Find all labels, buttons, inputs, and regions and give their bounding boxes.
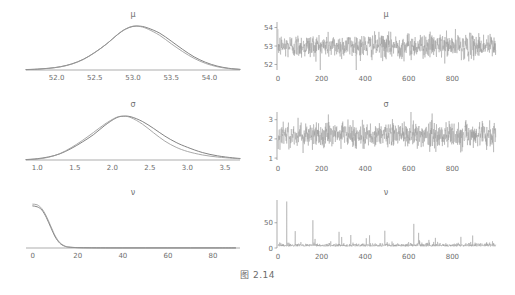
trace-mu-title: μ [383, 10, 388, 19]
x-tick-label: 2.0 [107, 164, 118, 172]
x-tick-label: 3.0 [182, 164, 193, 172]
x-tick-label: 400 [359, 75, 372, 83]
trace-sigma-yticks: 123 [269, 116, 277, 162]
y-tick-label: 2 [269, 135, 273, 143]
panel-trace-nu: ν 050 0200400600800 [256, 186, 506, 268]
trace-sigma-xticks: 0200400600800 [276, 165, 459, 173]
trace-nu-line [278, 202, 496, 247]
y-tick-label: 52 [264, 61, 273, 69]
density-nu-xticks: 020406080 [31, 252, 218, 260]
trace-sigma-line [278, 112, 496, 153]
x-tick-label: 200 [315, 75, 328, 83]
trace-mu-line [278, 29, 496, 70]
density-mu-title: μ [130, 10, 135, 19]
x-tick-label: 20 [73, 252, 82, 260]
x-tick-label: 0 [276, 165, 280, 173]
panel-density-nu: ν 020406080 [18, 186, 248, 268]
x-tick-label: 60 [163, 252, 172, 260]
density-sigma-xticks: 1.01.52.02.53.03.5 [32, 164, 231, 172]
y-tick-label: 53 [264, 43, 273, 51]
y-tick-label: 3 [269, 116, 273, 124]
density-sigma-title: σ [130, 100, 135, 109]
trace-nu-xticks: 0200400600800 [276, 253, 459, 261]
x-tick-label: 52.0 [49, 74, 65, 82]
y-tick-label: 50 [264, 219, 273, 227]
density-mu-xticks: 52.052.553.053.554.0 [49, 74, 217, 82]
x-tick-label: 0 [276, 253, 280, 261]
trace-mu-xticks: 0200400600800 [276, 75, 459, 83]
density-sigma-curve-normal [26, 116, 240, 160]
trace-mu-yticks: 525354 [264, 24, 277, 69]
x-tick-label: 53.0 [125, 74, 141, 82]
x-tick-label: 400 [359, 253, 372, 261]
density-nu-curve-normal [33, 204, 236, 248]
x-tick-label: 1.5 [69, 164, 80, 172]
x-tick-label: 0 [31, 252, 35, 260]
density-nu-title: ν [131, 188, 136, 197]
x-tick-label: 200 [315, 165, 328, 173]
x-tick-label: 800 [446, 75, 459, 83]
x-tick-label: 40 [118, 252, 127, 260]
x-tick-label: 600 [402, 75, 415, 83]
x-tick-label: 200 [315, 253, 328, 261]
x-tick-label: 800 [446, 165, 459, 173]
x-tick-label: 400 [359, 165, 372, 173]
density-mu-curve-kernel [26, 26, 240, 70]
density-sigma-curve-kernel [26, 116, 240, 159]
trace-nu-title: ν [384, 188, 389, 197]
y-tick-label: 54 [264, 24, 273, 32]
x-tick-label: 3.5 [219, 164, 230, 172]
density-nu-curve-kernel [33, 206, 236, 248]
figure-caption: 图 2.14 [0, 268, 515, 281]
panel-trace-sigma: σ 123 0200400600800 [256, 98, 506, 180]
y-tick-label: 0 [269, 245, 273, 253]
trace-nu-yticks: 050 [264, 219, 277, 252]
figure-2-14: μ 52.052.553.053.554.0 σ 1.01.52.02.53.0… [0, 0, 515, 295]
x-tick-label: 800 [446, 253, 459, 261]
x-tick-label: 52.5 [87, 74, 103, 82]
x-tick-label: 600 [402, 165, 415, 173]
panel-density-mu: μ 52.052.553.053.554.0 [18, 8, 248, 90]
x-tick-label: 600 [402, 253, 415, 261]
x-tick-label: 54.0 [202, 74, 218, 82]
trace-sigma-title: σ [383, 100, 388, 109]
x-tick-label: 0 [276, 75, 280, 83]
x-tick-label: 2.5 [144, 164, 155, 172]
y-tick-label: 1 [269, 155, 273, 163]
x-tick-label: 53.5 [163, 74, 179, 82]
panel-density-sigma: σ 1.01.52.02.53.03.5 [18, 98, 248, 180]
x-tick-label: 1.0 [32, 164, 43, 172]
panel-trace-mu: μ 525354 0200400600800 [256, 8, 506, 90]
x-tick-label: 80 [209, 252, 218, 260]
